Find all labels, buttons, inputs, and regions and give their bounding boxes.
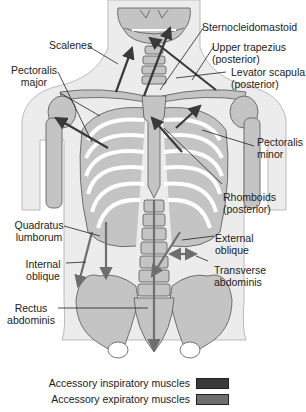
respiratory-muscles-diagram: Scalenes Sternocleidomastoid Upper trape… xyxy=(0,0,306,412)
label-external-oblique-line2: oblique xyxy=(215,244,254,256)
label-rectus-abdominis-line2: abdominis xyxy=(6,314,56,326)
label-rectus-abdominis: Rectus abdominis xyxy=(6,302,56,326)
label-internal-oblique-line1: Internal xyxy=(22,258,64,270)
legend-swatch-inspiratory xyxy=(196,378,229,389)
label-rectus-abdominis-line1: Rectus xyxy=(6,302,56,314)
label-pectoralis-minor-line1: Pectoralis xyxy=(257,136,303,148)
label-rhomboids: Rhomboids (posterior) xyxy=(223,191,276,215)
label-internal-oblique: Internal oblique xyxy=(22,258,64,282)
label-levator-scapula-line2: (posterior) xyxy=(231,78,305,90)
label-internal-oblique-line2: oblique xyxy=(22,270,64,282)
legend-label-expiratory: Accessory expiratory muscles xyxy=(51,392,190,406)
label-quadratus-lumborum-line1: Quadratus xyxy=(14,219,64,231)
legend-item-inspiratory: Accessory inspiratory muscles xyxy=(0,376,306,390)
legend-swatch-expiratory xyxy=(196,394,229,405)
label-transverse-abdominis: Transverse abdominis xyxy=(214,264,266,288)
label-quadratus-lumborum-line2: lumborum xyxy=(14,231,64,243)
label-levator-scapula: Levator scapula (posterior) xyxy=(231,66,305,90)
label-pectoralis-major: Pectoralis major xyxy=(8,64,60,88)
label-external-oblique-line1: External xyxy=(215,232,254,244)
label-upper-trapezius-line2: (posterior) xyxy=(212,53,286,65)
label-quadratus-lumborum: Quadratus lumborum xyxy=(14,219,64,243)
label-transverse-abdominis-line2: abdominis xyxy=(214,276,266,288)
label-transverse-abdominis-line1: Transverse xyxy=(214,264,266,276)
label-scalenes: Scalenes xyxy=(49,39,92,51)
legend-item-expiratory: Accessory expiratory muscles xyxy=(0,392,306,406)
label-upper-trapezius-line1: Upper trapezius xyxy=(212,41,286,53)
label-pectoralis-major-line1: Pectoralis xyxy=(8,64,60,76)
label-pectoralis-minor-line2: minor xyxy=(257,148,303,160)
label-external-oblique: External oblique xyxy=(215,232,254,256)
label-pectoralis-major-line2: major xyxy=(8,76,60,88)
legend-label-inspiratory: Accessory inspiratory muscles xyxy=(49,376,190,390)
label-rhomboids-line1: Rhomboids xyxy=(223,191,276,203)
label-upper-trapezius: Upper trapezius (posterior) xyxy=(212,41,286,65)
label-levator-scapula-line1: Levator scapula xyxy=(231,66,305,78)
label-pectoralis-minor: Pectoralis minor xyxy=(257,136,303,160)
label-sternocleidomastoid: Sternocleidomastoid xyxy=(202,21,297,33)
label-rhomboids-line2: (posterior) xyxy=(223,203,276,215)
